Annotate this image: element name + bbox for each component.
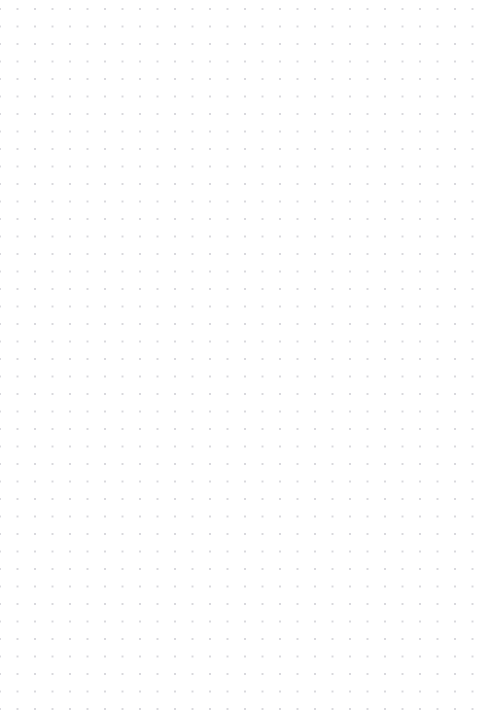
page-sheet — [0, 0, 479, 713]
dot-grid-surface — [0, 0, 479, 713]
dot-grid-page — [0, 0, 479, 713]
